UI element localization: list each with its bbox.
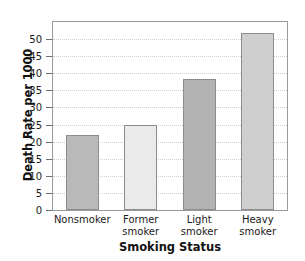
bar-heavy-smoker[interactable] [241,33,274,210]
x-category-label-line: Light [170,214,229,226]
y-tick-mark [46,193,52,194]
bar-former-smoker[interactable] [124,125,157,210]
bar-slot [241,22,274,210]
y-tick-label: 50 [0,34,42,45]
x-category-label-line: smoker [170,226,229,238]
x-category-label-line: Heavy [229,214,288,226]
y-tick-label: 15 [0,153,42,164]
bars-container [53,22,287,210]
x-category-label-line: smoker [112,226,171,238]
bar-slot [66,22,99,210]
y-tick-mark [46,90,52,91]
y-tick-label: 40 [0,68,42,79]
y-tick-label: 10 [0,170,42,181]
y-tick-label: 25 [0,119,42,130]
x-category-label: Heavysmoker [229,214,288,237]
x-category-label-line: Former [112,214,171,226]
bar-slot [124,22,157,210]
y-tick-mark [46,73,52,74]
y-tick-label: 30 [0,102,42,113]
y-tick-mark [46,159,52,160]
bar-light-smoker[interactable] [183,79,216,210]
x-axis-title: Smoking Status [52,240,288,254]
y-tick-mark [46,39,52,40]
y-tick-mark [46,125,52,126]
y-tick-label: 0 [0,205,42,216]
y-tick-mark [46,142,52,143]
bar-nonsmoker[interactable] [66,135,99,210]
y-tick-label: 20 [0,136,42,147]
y-tick-mark [46,210,52,211]
y-tick-label: 45 [0,51,42,62]
x-category-label: Nonsmoker [53,214,112,226]
y-tick-mark [46,176,52,177]
x-category-label: Lightsmoker [170,214,229,237]
y-tick-label: 35 [0,85,42,96]
y-tick-mark [46,107,52,108]
bar-chart-figure: Death Rate per 1000 05101520253035404550… [0,0,305,261]
y-tick-mark [46,56,52,57]
x-category-label-line: Nonsmoker [53,214,112,226]
y-tick-label: 5 [0,187,42,198]
x-category-label: Formersmoker [112,214,171,237]
x-category-label-line: smoker [229,226,288,238]
bar-slot [183,22,216,210]
